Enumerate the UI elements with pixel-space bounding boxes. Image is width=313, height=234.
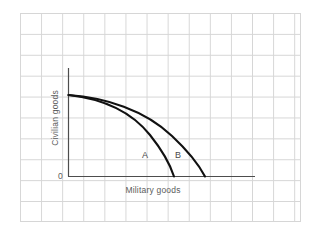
origin-tick-label: 0 [58,171,63,181]
ppf-curve-a [69,95,175,177]
chart-figure: Civilian goods Military goods 0 A B [0,0,313,234]
ppf-curve-b [69,95,206,177]
y-axis-label: Civilian goods [50,90,60,146]
curve-label-b: B [175,150,181,160]
curve-label-a: A [142,150,148,160]
x-axis-label: Military goods [125,185,180,195]
ppf-plot-area [0,0,313,234]
